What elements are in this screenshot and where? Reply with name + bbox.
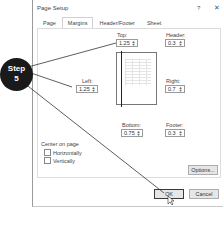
- mouse-cursor-icon: [168, 196, 174, 205]
- step-label: Step: [0, 64, 33, 74]
- step-callout-badge: Step 5: [0, 58, 33, 91]
- step-number: 5: [0, 74, 33, 84]
- callout-leader-lines: [0, 0, 223, 225]
